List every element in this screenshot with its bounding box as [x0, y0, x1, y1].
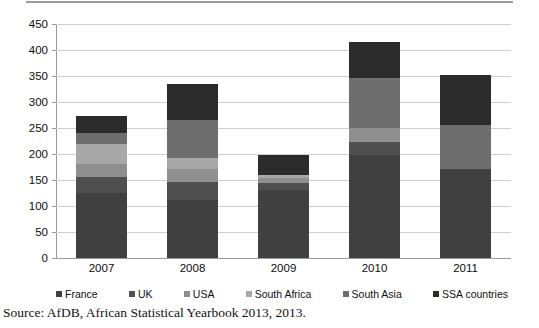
bar-segment-france[interactable] — [167, 200, 218, 258]
bar-group-2010[interactable]: 2010 — [349, 24, 400, 258]
bar-stack — [349, 42, 400, 258]
bar-segment-ssa-countries[interactable] — [349, 42, 400, 77]
bar-group-2011[interactable]: 2011 — [440, 24, 491, 258]
y-axis-label-400: 400 — [29, 44, 48, 56]
bar-segment-south-asia[interactable] — [76, 133, 127, 143]
bar-stack — [440, 75, 491, 258]
legend-label: South Asia — [352, 288, 402, 300]
legend-label: SSA countries — [442, 288, 508, 300]
legend-item-south-africa[interactable]: South Africa — [246, 288, 312, 300]
legend-item-uk[interactable]: UK — [129, 288, 153, 300]
bar-segment-uk[interactable] — [76, 177, 127, 193]
chart-legend: FranceUKUSASouth AfricaSouth AsiaSSA cou… — [56, 288, 508, 300]
bar-segment-south-asia[interactable] — [167, 120, 218, 157]
legend-label: USA — [193, 288, 215, 300]
legend-swatch-icon — [246, 291, 252, 297]
bar-group-2008[interactable]: 2008 — [167, 24, 218, 258]
bar-segment-france[interactable] — [440, 169, 491, 258]
bar-segment-uk[interactable] — [349, 142, 400, 155]
legend-swatch-icon — [129, 291, 135, 297]
bar-group-2007[interactable]: 2007 — [76, 24, 127, 258]
bar-stack — [76, 116, 127, 258]
legend-item-france[interactable]: France — [56, 288, 98, 300]
bar-segment-france[interactable] — [76, 193, 127, 258]
y-axis-label-150: 150 — [29, 174, 48, 186]
bar-segment-ssa-countries[interactable] — [440, 75, 491, 125]
legend-label: France — [65, 288, 98, 300]
bar-segment-france[interactable] — [349, 155, 400, 258]
bar-segment-usa[interactable] — [76, 164, 127, 177]
y-axis-label-250: 250 — [29, 122, 48, 134]
bar-stack — [258, 155, 309, 258]
top-divider — [26, 1, 513, 3]
legend-swatch-icon — [433, 291, 439, 297]
legend-swatch-icon — [184, 291, 190, 297]
x-axis-label-2011: 2011 — [440, 262, 491, 274]
bar-segment-south-asia[interactable] — [440, 125, 491, 168]
bar-segment-ssa-countries[interactable] — [76, 116, 127, 133]
bars-layer: 20072008200920102011 — [56, 24, 511, 258]
source-note: Source: AfDB, African Statistical Yearbo… — [3, 305, 306, 321]
x-axis-label-2010: 2010 — [349, 262, 400, 274]
bar-segment-france[interactable] — [258, 190, 309, 258]
bar-segment-south-africa[interactable] — [76, 144, 127, 165]
legend-item-ssa-countries[interactable]: SSA countries — [433, 288, 508, 300]
bar-segment-uk[interactable] — [258, 183, 309, 191]
y-axis-label-0: 0 — [42, 252, 48, 264]
x-axis-label-2009: 2009 — [258, 262, 309, 274]
y-axis-label-350: 350 — [29, 70, 48, 82]
bar-segment-uk[interactable] — [167, 182, 218, 200]
gridline-0: 0 — [56, 258, 511, 259]
legend-swatch-icon — [56, 291, 62, 297]
bar-stack — [167, 84, 218, 258]
chart-figure: 050100150200250300350400450 200720082009… — [0, 0, 539, 328]
legend-item-usa[interactable]: USA — [184, 288, 215, 300]
x-axis-label-2007: 2007 — [76, 262, 127, 274]
bar-segment-usa[interactable] — [349, 128, 400, 142]
y-axis-label-200: 200 — [29, 148, 48, 160]
legend-label: South Africa — [255, 288, 312, 300]
bar-segment-south-africa[interactable] — [167, 158, 218, 169]
bar-segment-south-asia[interactable] — [349, 78, 400, 128]
legend-item-south-asia[interactable]: South Asia — [343, 288, 402, 300]
bar-segment-usa[interactable] — [167, 169, 218, 182]
y-axis-label-100: 100 — [29, 200, 48, 212]
y-axis-label-50: 50 — [35, 226, 48, 238]
legend-label: UK — [138, 288, 153, 300]
y-axis-label-300: 300 — [29, 96, 48, 108]
legend-swatch-icon — [343, 291, 349, 297]
y-axis-label-450: 450 — [29, 18, 48, 30]
bar-segment-ssa-countries[interactable] — [258, 155, 309, 175]
bar-group-2009[interactable]: 2009 — [258, 24, 309, 258]
bar-segment-ssa-countries[interactable] — [167, 84, 218, 120]
y-tick-0 — [52, 258, 56, 259]
x-axis-label-2008: 2008 — [167, 262, 218, 274]
plot-area: 050100150200250300350400450 200720082009… — [56, 24, 511, 258]
